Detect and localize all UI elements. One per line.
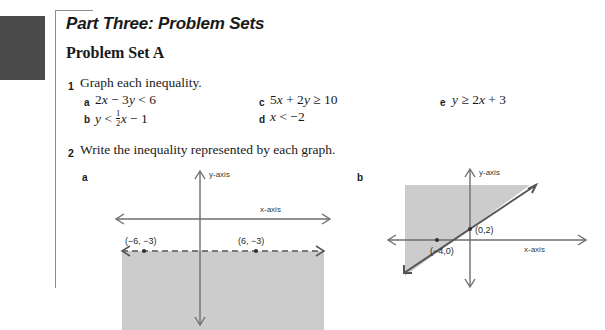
graph-a-y-axis-label: y-axis: [209, 170, 230, 179]
graph-b: y-axis x-axis (0,2) (−4,0): [382, 163, 602, 293]
problem-1-item-e-math: y ≥ 2x + 3: [452, 92, 506, 108]
problem-1-item-a-letter: a: [84, 97, 90, 108]
graph-b-point-label-intercept-y: (0,2): [475, 225, 494, 235]
problem-1-item-d-letter: d: [259, 114, 265, 125]
page-thumb-tab: [0, 16, 45, 80]
problem-1-item-b-letter: b: [84, 114, 90, 125]
graph-b-y-axis-label: y-axis: [479, 168, 500, 177]
graph-a-point-label-right: (6, −3): [238, 236, 264, 246]
graph-a: y-axis x-axis (−6, −3) (6, −3): [108, 165, 338, 330]
graph-b-point-label-intercept-x: (−4,0): [430, 246, 454, 256]
graph-a-point-6-neg3: [254, 249, 258, 253]
problem-1-item-e-letter: e: [440, 97, 446, 108]
graph-b-x-axis-label: x-axis: [524, 245, 545, 254]
graph-b-svg: y-axis x-axis (0,2) (−4,0): [382, 163, 602, 293]
graph-a-point-label-left: (−6, −3): [125, 236, 157, 246]
problem-1-item-a-math: 2x − 3y < 6: [95, 92, 156, 108]
graph-b-point-neg4-0: [435, 238, 439, 242]
problem-1-number: 1: [68, 80, 74, 92]
problem-1-stem: Graph each inequality.: [80, 75, 202, 91]
graph-a-svg: y-axis x-axis (−6, −3) (6, −3): [108, 165, 338, 330]
problem-1-item-d-math: x < −2: [270, 109, 305, 125]
graph-a-shaded-region: [122, 251, 324, 330]
graph-b-point-0-2: [468, 227, 472, 231]
problem-2-item-a-letter: a: [82, 172, 88, 183]
graph-a-point-neg6-neg3: [142, 249, 146, 253]
problem-1-item-b-math: y < 12x − 1: [95, 109, 148, 127]
graph-a-x-axis-label: x-axis: [260, 205, 281, 214]
problem-2-item-b-letter: b: [357, 172, 363, 183]
vertical-rule-divider: [55, 10, 56, 288]
problem-2-number: 2: [68, 147, 74, 159]
page-title: Part Three: Problem Sets: [66, 14, 264, 34]
one-half-fraction: 12: [116, 109, 120, 127]
problem-1-item-c-math: 5x + 2y ≥ 10: [270, 92, 338, 108]
graph-a-x-axis: [116, 214, 330, 224]
top-rule-divider: [56, 10, 93, 11]
problem-2-stem: Write the inequality represented by each…: [80, 142, 335, 158]
problem-1-item-c-letter: c: [259, 97, 265, 108]
problem-set-heading: Problem Set A: [66, 44, 164, 62]
